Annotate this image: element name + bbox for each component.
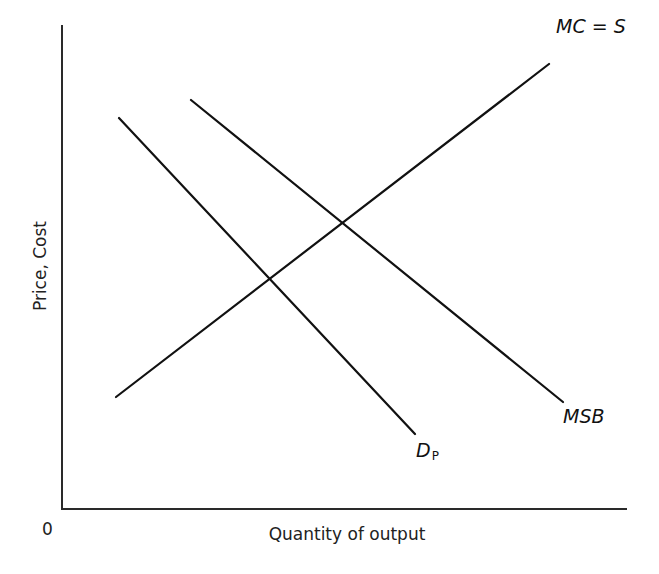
y-axis-label: Price, Cost <box>30 221 50 311</box>
x-axis-label: Quantity of output <box>269 524 426 544</box>
private-demand-label-subscript: P <box>432 449 439 463</box>
msb-curve <box>191 100 563 402</box>
msb-label: MSB <box>563 405 605 427</box>
economics-diagram: 0 Quantity of output Price, Cost MC = S … <box>0 0 659 574</box>
private-demand-curve <box>119 118 415 434</box>
mc-supply-label: MC = S <box>556 15 626 37</box>
private-demand-label: DP <box>416 439 439 463</box>
private-demand-label-main: D <box>416 439 431 461</box>
origin-label: 0 <box>42 519 53 539</box>
